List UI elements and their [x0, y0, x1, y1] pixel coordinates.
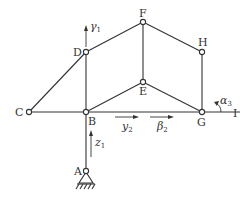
joint-B [83, 109, 88, 114]
z1-arrow-icon [89, 130, 93, 157]
joint-E [140, 79, 145, 84]
beta2-label: β2 [156, 120, 168, 134]
y2-arrow-icon [115, 115, 139, 119]
joint-G [199, 109, 204, 114]
label-I: I [233, 107, 237, 120]
joint-H [199, 49, 204, 54]
z1-label: z1 [94, 136, 105, 150]
member-E-G [143, 82, 202, 112]
beta2-arrow-icon [150, 115, 174, 119]
label-G: G [197, 116, 206, 129]
members [29, 22, 240, 168]
label-H: H [198, 36, 208, 49]
alpha3-label: α3 [220, 94, 232, 108]
label-D: D [73, 46, 82, 59]
member-C-D [29, 52, 86, 112]
linkage-diagram: A B C D E F G H I γ1 z1 y2 β2 α3 [0, 0, 250, 204]
joint-C [26, 109, 31, 114]
label-B: B [88, 115, 96, 128]
label-A: A [73, 165, 83, 178]
member-B-E [86, 82, 143, 112]
label-F: F [139, 7, 147, 20]
gamma1-arrow-icon [84, 25, 88, 47]
gamma1-label: γ1 [90, 20, 101, 34]
joint-D [83, 49, 88, 54]
label-C: C [15, 106, 23, 119]
joint-A [83, 168, 88, 173]
y2-label: y2 [121, 120, 133, 134]
node-labels: A B C D E F G H I [15, 7, 237, 178]
joint-F [140, 19, 145, 24]
label-E: E [139, 85, 147, 98]
member-F-H [143, 22, 202, 52]
